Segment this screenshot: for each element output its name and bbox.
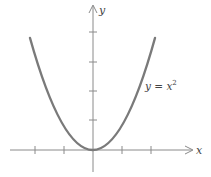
curve-label: y = x2 [144, 79, 177, 92]
x-axis-label: x [196, 144, 203, 157]
parabola-graph: y x y = x2 [0, 0, 211, 177]
y-axis-label: y [98, 4, 106, 17]
